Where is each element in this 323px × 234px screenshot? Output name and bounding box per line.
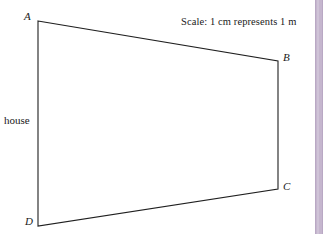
vertex-label-a: A	[24, 11, 31, 22]
diagram-page: A B C D house Scale: 1 cm represents 1 m	[0, 0, 323, 234]
quadrilateral-abcd-outline	[38, 21, 278, 226]
scale-note-text: Scale: 1 cm represents 1 m	[181, 17, 296, 28]
house-label: house	[4, 115, 30, 126]
vertex-label-c: C	[283, 181, 290, 192]
quadrilateral-figure	[0, 0, 323, 234]
vertex-label-b: B	[283, 52, 290, 63]
vertex-label-d: D	[25, 216, 33, 227]
page-edge-strip-highlight	[317, 0, 319, 234]
page-edge-strip	[315, 0, 323, 234]
